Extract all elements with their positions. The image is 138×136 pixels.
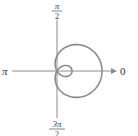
arrow-head-icon xyxy=(111,68,117,74)
label-pi-over-2-num: π xyxy=(55,1,60,11)
polar-graph: π 0 π 2 3π 2 xyxy=(0,0,138,136)
label-3pi-over-2-num: 3π xyxy=(51,119,62,129)
label-pi: π xyxy=(2,65,8,77)
label-3pi-over-2-den: 2 xyxy=(55,130,59,136)
label-pi-over-2-den: 2 xyxy=(55,12,59,21)
label-zero: 0 xyxy=(120,65,126,77)
